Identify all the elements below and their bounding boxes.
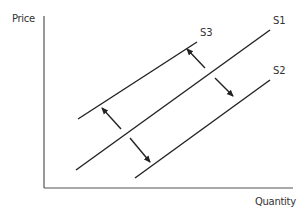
supply-shift-chart (0, 0, 308, 213)
shift-arrows (102, 49, 233, 162)
series-label-s2: S2 (273, 65, 286, 76)
arrow-down-right-icon (130, 138, 150, 162)
x-axis-label: Quantity (255, 196, 296, 207)
arrow-up-left-icon (187, 49, 205, 68)
arrow-down-right-icon (215, 78, 233, 96)
supply-curve-s3 (78, 42, 197, 119)
arrow-up-left-icon (102, 108, 121, 129)
series-lines (76, 30, 270, 178)
supply-curve-s2 (135, 80, 270, 178)
y-axis-label: Price (12, 13, 35, 24)
supply-curve-s1 (76, 30, 270, 170)
series-label-s1: S1 (273, 15, 286, 26)
series-label-s3: S3 (200, 27, 213, 38)
